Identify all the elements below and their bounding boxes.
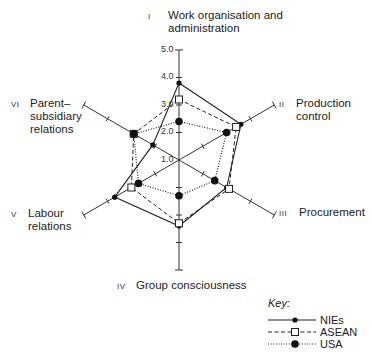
- series-asean: [128, 96, 240, 227]
- radar-chart: [0, 0, 372, 360]
- axis-tick: [82, 212, 86, 219]
- legend-lines: [268, 317, 316, 347]
- tick-label-1: 1.0: [161, 154, 183, 164]
- axis-2-label-line2: control: [296, 110, 351, 123]
- tick-label-2: 2.0: [161, 126, 183, 136]
- axis-4-label-line1: Group consciousness: [136, 279, 247, 292]
- tick-label-3: 3.0: [161, 99, 183, 109]
- axis-tick: [201, 144, 204, 149]
- data-point-marker: [226, 185, 233, 192]
- data-point-marker: [150, 142, 155, 147]
- axis-3-numeral: III: [279, 209, 287, 218]
- data-point-marker: [176, 220, 183, 227]
- data-point-marker: [211, 177, 219, 185]
- axis-5-label: Labour relations: [28, 207, 71, 233]
- series-polygon: [131, 100, 236, 224]
- legend-title: Key:: [268, 297, 290, 309]
- legend-label-nies: NIEs: [320, 314, 344, 326]
- data-point-marker: [135, 180, 143, 188]
- tick-label-4: 4.0: [161, 71, 183, 81]
- axis-1-numeral: I: [148, 12, 151, 21]
- legend-marker-usa: [291, 340, 299, 348]
- axis-4-label: Group consciousness: [136, 279, 247, 292]
- legend-label-usa: USA: [320, 338, 343, 350]
- axis-tick: [249, 199, 252, 204]
- legend-marker-nies: [292, 317, 297, 322]
- axis-3-label: Procurement: [299, 206, 365, 219]
- data-point-marker: [223, 129, 231, 137]
- axis-6-numeral: VI: [11, 100, 20, 109]
- axis-6-label-line2: subsidiary: [30, 110, 82, 123]
- axis-tick: [272, 212, 276, 219]
- axis-1-label-line2: administration: [168, 22, 283, 35]
- axis-5-label-line1: Labour: [28, 207, 71, 220]
- data-point-marker: [128, 184, 135, 191]
- data-point-marker: [175, 192, 183, 200]
- axis-6-label-line3: relations: [30, 123, 82, 136]
- axis-2-label-line1: Production: [296, 97, 351, 110]
- data-point-marker: [233, 124, 240, 131]
- data-point-marker: [176, 80, 181, 85]
- axis-tick: [201, 171, 204, 176]
- axis-1-label-line1: Work organisation and: [168, 9, 283, 22]
- axis-tick: [249, 116, 252, 121]
- tick-label-5: 5.0: [161, 44, 183, 54]
- data-point-marker: [130, 130, 138, 138]
- legend-label-asean: ASEAN: [320, 326, 357, 338]
- legend-marker-asean: [292, 329, 299, 336]
- axis-tick: [106, 199, 109, 204]
- axis-6-label: Parent– subsidiary relations: [30, 97, 82, 136]
- axis-tick: [82, 102, 86, 109]
- axis-5-numeral: V: [11, 210, 17, 219]
- axis-tick: [106, 116, 109, 121]
- data-point-marker: [175, 118, 183, 126]
- axis-tick: [272, 102, 276, 109]
- axis-6-label-line1: Parent–: [30, 97, 82, 110]
- axis-1-label: Work organisation and administration: [168, 9, 283, 35]
- axis-4-numeral: IV: [117, 282, 126, 291]
- data-point-marker: [112, 195, 117, 200]
- axis-2-numeral: II: [279, 100, 284, 109]
- axis-3-label-line1: Procurement: [299, 206, 365, 219]
- axis-2-label: Production control: [296, 97, 351, 123]
- axis-5-label-line2: relations: [28, 220, 71, 233]
- axis-tick: [154, 171, 157, 176]
